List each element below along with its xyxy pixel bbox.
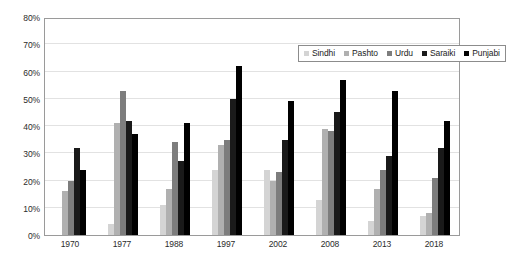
x-tick-label: 1997 (217, 239, 236, 249)
y-tick-label: 20% (0, 177, 40, 187)
x-tick-label: 2008 (321, 239, 340, 249)
x-tick-label: 2018 (425, 239, 444, 249)
plot-area: SindhiPashtoUrduSaraikiPunjabi (44, 18, 460, 236)
legend-label: Pashto (352, 48, 378, 58)
bar (184, 123, 190, 235)
legend-swatch-icon (464, 51, 469, 56)
legend-label: Urdu (395, 48, 413, 58)
x-tick-label: 1977 (113, 239, 132, 249)
x-tick-label: 1970 (61, 239, 80, 249)
legend-swatch-icon (304, 51, 309, 56)
y-tick-label: 0% (0, 231, 40, 241)
y-tick-label: 80% (0, 13, 40, 23)
bar (132, 134, 138, 235)
legend-swatch-icon (422, 51, 427, 56)
x-axis: 19701977198819972002200820132018 (44, 239, 460, 257)
y-tick-label: 50% (0, 95, 40, 105)
legend-swatch-icon (344, 51, 349, 56)
bar (288, 101, 294, 235)
legend-item: Saraiki (422, 48, 455, 58)
x-tick-label: 2013 (373, 239, 392, 249)
y-tick-label: 30% (0, 149, 40, 159)
bar (392, 91, 398, 235)
y-tick-label: 10% (0, 204, 40, 214)
legend-swatch-icon (387, 51, 392, 56)
x-tick-label: 2002 (269, 239, 288, 249)
x-tick-label: 1988 (165, 239, 184, 249)
legend-item: Pashto (344, 48, 378, 58)
legend-item: Punjabi (464, 48, 500, 58)
legend-label: Saraiki (430, 48, 455, 58)
bar (80, 170, 86, 235)
y-tick-label: 70% (0, 40, 40, 50)
bar (444, 121, 450, 235)
y-axis: 0%10%20%30%40%50%60%70%80% (0, 18, 40, 236)
bar (340, 80, 346, 235)
y-tick-label: 40% (0, 122, 40, 132)
y-tick-label: 60% (0, 68, 40, 78)
bar (236, 66, 242, 235)
legend-label: Punjabi (472, 48, 500, 58)
legend-item: Sindhi (304, 48, 335, 58)
legend-label: Sindhi (312, 48, 335, 58)
legend-item: Urdu (387, 48, 413, 58)
chart-legend: SindhiPashtoUrduSaraikiPunjabi (298, 45, 506, 62)
